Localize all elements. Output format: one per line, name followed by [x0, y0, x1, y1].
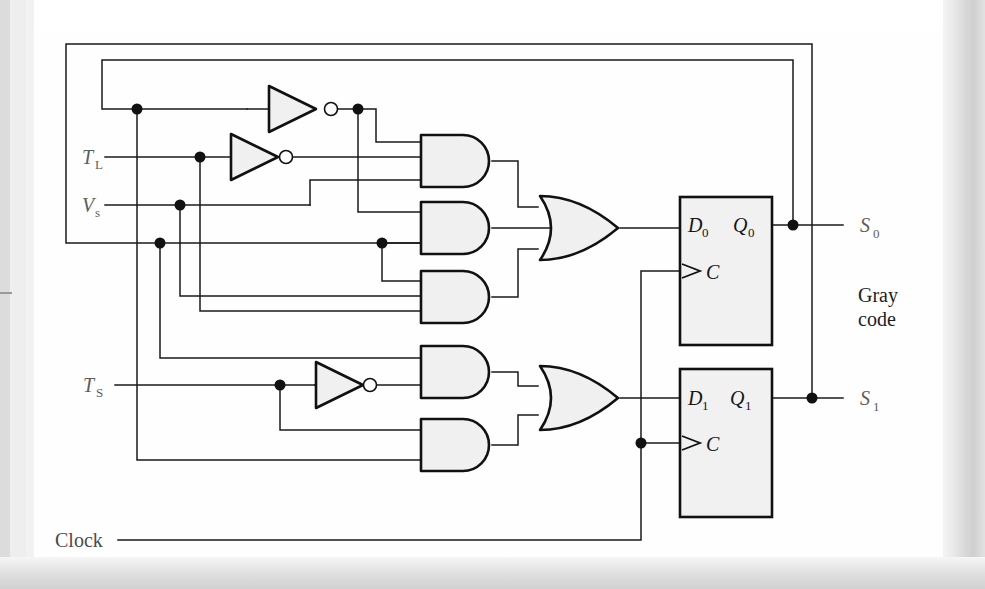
flip-flop-1-clock-label: C	[706, 433, 720, 455]
wire-vs-to-and1	[310, 180, 420, 205]
and-gate-1	[421, 135, 489, 187]
wire-and2tap-to-and3	[382, 243, 420, 281]
flip-flop-0: D 0 Q 0 C	[680, 197, 772, 345]
wire-inv1-to-and1	[358, 109, 420, 142]
inverter-top-bubble	[325, 103, 338, 116]
wire-and4-out	[492, 372, 538, 386]
flip-flop-0-d-label: D	[687, 214, 703, 236]
junction-dot-q1-outer	[155, 238, 166, 249]
junction-dot-q1-rail	[132, 104, 143, 115]
or-gate-top	[540, 196, 618, 260]
flip-flop-1-q-sub: 1	[745, 398, 752, 413]
or-gate-bottom	[540, 366, 618, 430]
wire-and3-out	[492, 249, 538, 297]
output-label-s1-sub: 1	[873, 399, 880, 414]
input-label-vs-sub: s	[95, 205, 100, 220]
flip-flop-0-clock-label: C	[706, 261, 720, 283]
and-gate-3	[421, 271, 489, 323]
inverter-bottom	[316, 362, 377, 408]
inverter-top	[269, 86, 338, 132]
wire-and1-out	[492, 161, 538, 207]
flip-flop-0-q-sub: 0	[748, 225, 755, 240]
and-gate-5	[421, 419, 489, 471]
scan-right-edge	[943, 0, 985, 589]
input-label-tl-base: T	[82, 146, 95, 168]
scan-bottom-edge	[0, 557, 985, 589]
junction-dot-q1-out	[807, 393, 818, 404]
circuit-diagram: D 0 Q 0 C D 1 Q 1 C	[0, 0, 985, 589]
output-label-s0-base: S	[860, 214, 870, 236]
flip-flop-0-q-label: Q	[733, 214, 748, 236]
flip-flop-1-q-label: Q	[730, 387, 745, 409]
junction-dot-inv1-out	[353, 104, 364, 115]
output-label-s0: S 0	[860, 214, 880, 241]
inverter-middle	[231, 134, 293, 180]
input-label-tl-sub: L	[95, 157, 103, 172]
wire-vs-bus-vertical	[180, 205, 420, 296]
junction-dot-ts	[275, 380, 286, 391]
input-label-ts-base: T	[83, 374, 96, 396]
junction-dot-tl	[195, 152, 206, 163]
junction-dot-and2-input	[377, 238, 388, 249]
annotation-code: code	[858, 308, 896, 330]
output-label-s0-sub: 0	[873, 226, 880, 241]
input-label-tl: T L	[82, 146, 103, 172]
junction-dot-vs	[175, 200, 186, 211]
inverter-bottom-bubble	[364, 379, 377, 392]
flip-flop-1-d-sub: 1	[702, 398, 709, 413]
input-label-clock: Clock	[55, 529, 103, 551]
output-label-s1-base: S	[860, 387, 870, 409]
annotation-gray: Gray	[858, 284, 898, 307]
junction-dot-q0-out	[788, 220, 799, 231]
input-label-ts: T S	[83, 374, 103, 400]
inverter-middle-bubble	[280, 151, 293, 164]
flip-flop-1: D 1 Q 1 C	[680, 369, 772, 517]
junction-dot-clock	[636, 438, 647, 449]
figure-page: D 0 Q 0 C D 1 Q 1 C	[0, 0, 985, 589]
input-label-ts-sub: S	[96, 385, 103, 400]
flip-flop-1-d-label: D	[687, 387, 703, 409]
output-label-s1: S 1	[860, 387, 880, 414]
wire-and5-out	[492, 415, 538, 445]
flip-flop-0-d-sub: 0	[702, 225, 709, 240]
and-gate-2	[421, 202, 489, 254]
wire-inv1-to-and2	[358, 109, 420, 212]
and-gate-4	[421, 346, 489, 398]
wire-q1-bus-branch	[160, 243, 420, 358]
input-label-vs: V s	[82, 194, 100, 220]
